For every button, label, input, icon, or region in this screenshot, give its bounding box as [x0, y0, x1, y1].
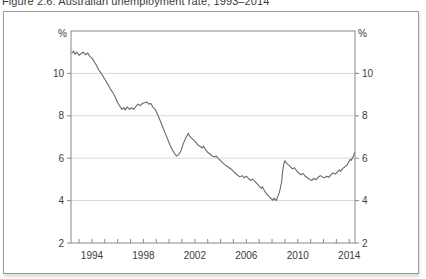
y-unit-label-right: % — [358, 28, 367, 39]
x-tick-label: 2014 — [338, 250, 361, 261]
y-tick-label-left: 6 — [58, 153, 64, 164]
x-axis-ticks: 199419982002200620102014 — [79, 239, 361, 261]
plot-frame — [71, 31, 355, 243]
x-tick-label: 2006 — [235, 250, 258, 261]
y-tick-label-left: 2 — [58, 238, 64, 249]
y-tick-label-right: 2 — [362, 238, 368, 249]
y-tick-label-right: 4 — [362, 195, 368, 206]
x-tick-label: 1994 — [81, 250, 104, 261]
x-tick-label: 2002 — [184, 250, 207, 261]
x-tick-label: 1998 — [132, 250, 155, 261]
page: Figure 2.6: Australian unemployment rate… — [0, 0, 426, 279]
y-tick-label-left: 8 — [58, 110, 64, 121]
x-tick-label: 2010 — [287, 250, 310, 261]
y-gridlines — [71, 73, 355, 200]
unemployment-line-chart: 224466881010%%199419982002200620102014 — [0, 0, 426, 279]
y-tick-label-left: 4 — [58, 195, 64, 206]
y-unit-label-left: % — [58, 28, 67, 39]
y-tick-label-right: 10 — [362, 68, 374, 79]
y-tick-label-right: 8 — [362, 110, 368, 121]
y-tick-label-left: 10 — [53, 68, 65, 79]
y-tick-label-right: 6 — [362, 153, 368, 164]
